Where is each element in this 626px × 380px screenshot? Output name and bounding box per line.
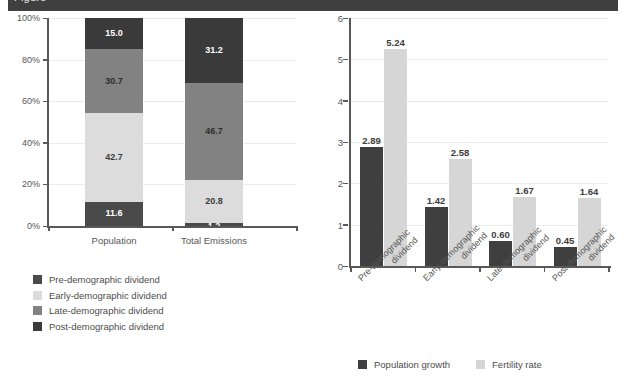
stacked-bar-segment[interactable]: 30.7 <box>85 49 143 113</box>
left-x-tick <box>48 226 50 231</box>
stacked-bar-segment[interactable]: 42.7 <box>85 113 143 202</box>
legend-label: Fertility rate <box>492 359 542 370</box>
right-y-tick <box>343 59 348 61</box>
legend-swatch <box>33 306 42 315</box>
segment-value-label: 20.8 <box>205 197 223 206</box>
right-y-tick <box>343 100 348 102</box>
segment-value-label: 46.7 <box>205 127 223 136</box>
right-y-tick <box>343 142 348 144</box>
segment-value-label: 15.0 <box>105 29 123 38</box>
bar-value-label: 1.64 <box>580 186 599 197</box>
top-banner: Figure <box>8 0 618 11</box>
bar-group: 0.451.64 <box>554 18 601 266</box>
legend-label: Early-demographic dividend <box>49 290 167 301</box>
right-x-tick <box>544 266 546 272</box>
legend-label: Late-demographic dividend <box>49 305 164 316</box>
left-x-tick-label: Population <box>92 235 137 246</box>
stacked-bar[interactable]: 31.246.720.81.2 <box>185 18 243 226</box>
bar-group: 0.601.67 <box>489 18 536 266</box>
right-y-tick <box>343 18 348 20</box>
bar-value-label: 1.42 <box>427 195 446 206</box>
stacked-bar-chart: 0%20%40%60%80%100% 15.030.742.711.631.24… <box>0 14 313 354</box>
left-y-tick-label: 80% <box>22 55 40 65</box>
segment-value-label: 11.6 <box>105 209 122 218</box>
right-y-tick <box>343 266 348 268</box>
segment-value-label: 31.2 <box>205 46 223 55</box>
legend-swatch <box>33 291 42 300</box>
left-y-tick-label: 60% <box>22 96 40 106</box>
left-x-tick <box>172 226 174 231</box>
right-y-axis-line <box>349 18 351 267</box>
left-plot-area: 15.030.742.711.631.246.720.81.2 <box>48 18 296 226</box>
right-y-tick <box>343 224 348 226</box>
segment-value-label: 42.7 <box>105 153 123 162</box>
bar-value-label: 0.45 <box>556 235 575 246</box>
right-y-tick <box>343 183 348 185</box>
left-y-tick-label: 0% <box>27 221 40 231</box>
right-legend: Population growthFertility rate <box>358 358 542 370</box>
bar-value-label: 2.58 <box>451 147 470 158</box>
legend-swatch <box>33 275 42 284</box>
grouped-bar[interactable]: 2.89 <box>360 147 383 266</box>
left-x-tick-label: Total Emissions <box>181 235 247 246</box>
stacked-bar-segment[interactable]: 31.2 <box>185 18 243 83</box>
left-y-tick-label: 40% <box>22 138 40 148</box>
left-x-tick <box>296 226 298 231</box>
bar-group: 2.895.24 <box>360 18 407 266</box>
segment-value-label: 30.7 <box>105 77 123 86</box>
left-y-axis-line <box>47 18 49 227</box>
right-x-tick <box>415 266 417 272</box>
legend-swatch <box>476 360 485 369</box>
legend-label: Pre-demographic dividend <box>49 274 160 285</box>
stacked-bar-segment[interactable]: 46.7 <box>185 83 243 180</box>
legend-item[interactable]: Pre-demographic dividend <box>33 272 167 288</box>
right-x-tick <box>608 266 610 272</box>
bar-value-label: 5.24 <box>386 37 405 48</box>
legend-item[interactable]: Post-demographic dividend <box>33 319 167 335</box>
left-y-tick-label: 100% <box>17 13 40 23</box>
legend-item[interactable]: Population growth <box>358 358 450 370</box>
stacked-bar[interactable]: 15.030.742.711.6 <box>85 18 143 226</box>
bar-value-label: 0.60 <box>491 229 510 240</box>
right-x-tick <box>479 266 481 272</box>
right-x-tick <box>350 266 352 272</box>
left-legend: Pre-demographic dividendEarly-demographi… <box>33 272 167 334</box>
bar-group: 1.422.58 <box>425 18 472 266</box>
grouped-bar-chart: 0123456 2.895.241.422.580.601.670.451.64… <box>313 14 626 380</box>
bar-value-label: 1.67 <box>515 185 534 196</box>
stacked-bar-segment[interactable]: 15.0 <box>85 18 143 49</box>
legend-swatch <box>33 322 42 331</box>
stacked-bar-segment[interactable]: 11.6 <box>85 202 143 226</box>
legend-item[interactable]: Early-demographic dividend <box>33 288 167 304</box>
legend-item[interactable]: Late-demographic dividend <box>33 303 167 319</box>
left-y-axis-labels: 0%20%40%60%80%100% <box>0 14 47 234</box>
banner-cut-text: Figure <box>14 0 46 3</box>
left-y-tick-label: 20% <box>22 179 40 189</box>
legend-label: Post-demographic dividend <box>49 321 164 332</box>
legend-swatch <box>358 360 367 369</box>
bar-value-label: 2.89 <box>362 135 381 146</box>
legend-label: Population growth <box>374 359 450 370</box>
stacked-bar-segment[interactable]: 20.8 <box>185 180 243 223</box>
legend-item[interactable]: Fertility rate <box>476 358 542 370</box>
